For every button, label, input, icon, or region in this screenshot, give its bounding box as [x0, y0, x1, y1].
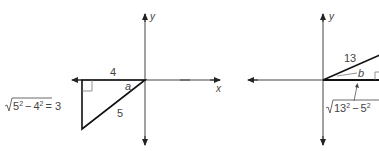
left-horizontal-leg-label: 4: [110, 66, 116, 78]
left-hypotenuse-label: 5: [117, 107, 123, 119]
left-angle-label: a: [125, 80, 131, 92]
leg-pointer-arrowhead-icon: [355, 83, 359, 88]
left-x-axis-label: x: [215, 83, 222, 94]
svg-text:52−42= 3: 52−42= 3: [13, 100, 61, 112]
diagram-canvas: y 4 a 5 52−42= 3 x y 13 b: [0, 0, 379, 151]
left-triangle: [82, 80, 145, 129]
left-y-axis-label: y: [149, 11, 156, 22]
right-hypotenuse-label: 13: [344, 52, 356, 64]
right-y-axis-label: y: [328, 11, 335, 22]
svg-text:132−52: 132−52: [334, 102, 371, 114]
left-vertical-leg-expression: 52−42= 3: [5, 98, 61, 112]
angle-b-pointer: [337, 73, 357, 76]
right-angle-label: b: [358, 67, 364, 79]
right-horizontal-leg-expression: 132−52: [326, 100, 379, 114]
right-right-angle-marker: [375, 72, 379, 80]
left-coordinate-plane: y 4 a 5 52−42= 3: [5, 11, 190, 145]
right-coordinate-plane: y 13 b 132−52: [248, 11, 379, 145]
leg-pointer-line: [354, 86, 357, 101]
left-right-angle-marker: [82, 80, 92, 91]
